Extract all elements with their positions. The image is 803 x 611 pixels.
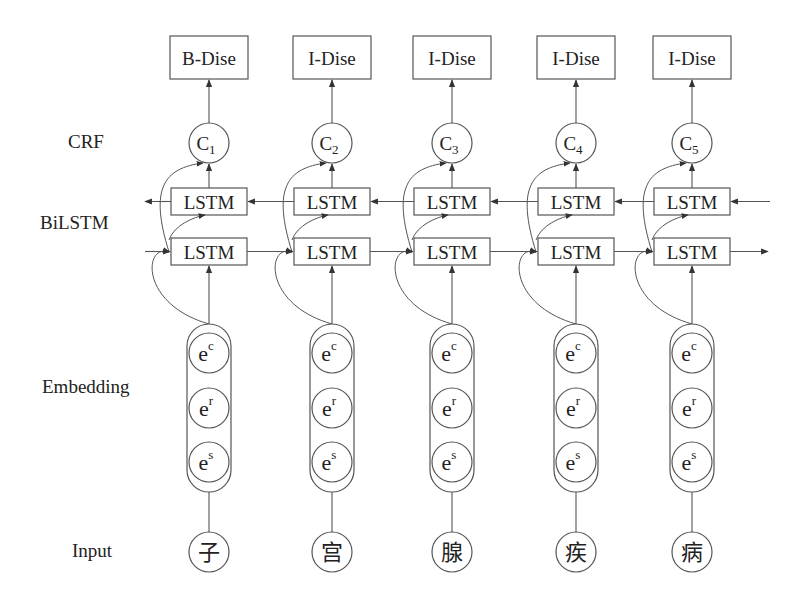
embedding-node-r: er [556, 388, 596, 428]
output-tag-box: I-Dise [653, 36, 731, 79]
output-tag-box: B-Dise [170, 36, 248, 79]
lstm-backward-cell: LSTM [294, 188, 370, 215]
embedding-node-s: es [672, 442, 712, 482]
input-char-label: 腺 [441, 540, 463, 565]
embedding-stack: eceres [430, 324, 474, 492]
embedding-node-r: er [432, 388, 472, 428]
output-tag-label: I-Dise [668, 48, 715, 69]
column-5: I-DiseC5LSTMLSTMeceres病 [635, 36, 731, 572]
output-tag-label: I-Dise [552, 48, 599, 69]
lstm-forward-cell: LSTM [654, 238, 730, 265]
input-char-label: 子 [198, 540, 220, 565]
crf-node: C4 [556, 123, 596, 163]
lstm-backward-cell: LSTM [414, 188, 490, 215]
embedding-node-r: er [672, 388, 712, 428]
column-4: I-DiseC4LSTMLSTMeceres疾 [519, 36, 615, 572]
skip-connection [652, 215, 688, 240]
output-tag-box: I-Dise [413, 36, 491, 79]
output-tag-label: B-Dise [182, 48, 236, 69]
input-char-node: 病 [672, 532, 712, 572]
embedding-stack: eceres [670, 324, 714, 492]
lstm-label: LSTM [184, 192, 235, 213]
column-2: I-DiseC2LSTMLSTMeceres宫 [275, 36, 371, 572]
lstm-forward-cell: LSTM [538, 238, 614, 265]
lstm-forward-cell: LSTM [414, 238, 490, 265]
embedding-node-c: ec [672, 333, 712, 373]
lstm-forward-cell: LSTM [171, 238, 247, 265]
embedding-node-c: ec [312, 333, 352, 373]
input-char-label: 病 [681, 540, 703, 565]
lstm-label: LSTM [427, 192, 478, 213]
embedding-stack: eceres [310, 324, 354, 492]
embedding-node-r: er [312, 388, 352, 428]
lstm-backward-cell: LSTM [171, 188, 247, 215]
embedding-node-c: ec [556, 333, 596, 373]
lstm-label: LSTM [307, 192, 358, 213]
bilstm-crf-diagram: B-DiseC1LSTMLSTMeceres子I-DiseC2LSTMLSTMe… [0, 0, 803, 611]
embedding-stack: eceres [187, 324, 231, 492]
lstm-forward-cell: LSTM [294, 238, 370, 265]
lstm-label: LSTM [551, 242, 602, 263]
input-char-label: 宫 [321, 540, 343, 565]
lstm-backward-cell: LSTM [538, 188, 614, 215]
embedding-node-s: es [556, 442, 596, 482]
skip-connection [536, 215, 572, 240]
crf-node: C5 [672, 123, 712, 163]
embedding-node-s: es [432, 442, 472, 482]
crf-node: C2 [312, 123, 352, 163]
output-tag-box: I-Dise [293, 36, 371, 79]
embedding-node-s: es [189, 442, 229, 482]
embedding-stack: eceres [554, 324, 598, 492]
input-char-label: 疾 [565, 540, 587, 565]
embedding-node-s: es [312, 442, 352, 482]
lstm-label: LSTM [551, 192, 602, 213]
column-1: B-DiseC1LSTMLSTMeceres子 [152, 36, 248, 572]
embedding-node-c: ec [189, 333, 229, 373]
input-char-node: 子 [189, 532, 229, 572]
skip-connection [412, 215, 448, 240]
lstm-label: LSTM [667, 192, 718, 213]
output-tag-label: I-Dise [428, 48, 475, 69]
skip-connection [292, 215, 328, 240]
lstm-label: LSTM [667, 242, 718, 263]
input-char-node: 腺 [432, 532, 472, 572]
lstm-label: LSTM [307, 242, 358, 263]
embedding-node-r: er [189, 388, 229, 428]
output-tag-box: I-Dise [537, 36, 615, 79]
column-3: I-DiseC3LSTMLSTMeceres腺 [395, 36, 491, 572]
crf-node: C3 [432, 123, 472, 163]
input-char-node: 宫 [312, 532, 352, 572]
crf-node: C1 [189, 123, 229, 163]
lstm-label: LSTM [184, 242, 235, 263]
lstm-backward-cell: LSTM [654, 188, 730, 215]
input-char-node: 疾 [556, 532, 596, 572]
skip-connection [169, 215, 205, 240]
output-tag-label: I-Dise [308, 48, 355, 69]
embedding-node-c: ec [432, 333, 472, 373]
lstm-label: LSTM [427, 242, 478, 263]
